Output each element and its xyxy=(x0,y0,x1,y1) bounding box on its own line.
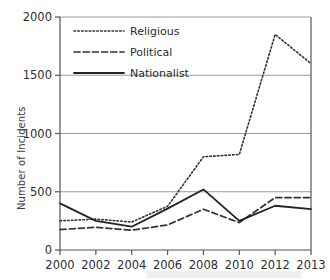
scan-artifact xyxy=(146,271,302,278)
series-line-nationalist xyxy=(60,189,311,226)
legend-label-political: Political xyxy=(130,46,172,59)
plot-area xyxy=(0,0,330,280)
legend-label-religious: Religious xyxy=(130,25,180,38)
series-line-political xyxy=(60,198,311,231)
legend-label-nationalist: Nationalist xyxy=(130,67,189,80)
series-line-religious xyxy=(60,34,311,222)
line-chart: Number of Incidents 0500100015002000 200… xyxy=(0,0,330,280)
